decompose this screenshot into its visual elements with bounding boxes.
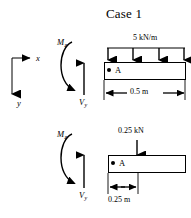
x-axis-label: x — [36, 54, 40, 63]
shear-label-top: Vy — [79, 92, 87, 108]
figure-canvas: Case 1 — [0, 0, 191, 218]
point-load-label: 0.25 kN — [118, 127, 144, 135]
dimension-label-bottom: 0.25 m — [108, 196, 130, 204]
moment-arc-bottom — [61, 134, 74, 183]
moment-subscript-top: z — [64, 42, 67, 48]
shear-subscript-top: y — [84, 102, 87, 108]
y-axis-label: y — [17, 99, 21, 108]
moment-subscript-bottom: z — [64, 134, 67, 140]
moment-arc-top — [61, 42, 74, 90]
moment-label-top: Mz — [57, 32, 67, 48]
distributed-load-label: 5 kN/m — [133, 34, 157, 42]
point-a-marker-bottom — [111, 161, 115, 165]
shear-label-bottom: Vy — [79, 185, 87, 201]
point-a-marker-top — [107, 68, 111, 72]
point-a-label-bottom: A — [119, 159, 125, 168]
dimension-label-top: 0.5 m — [130, 88, 148, 96]
point-a-label-top: A — [115, 66, 121, 75]
moment-label-bottom: Mz — [57, 124, 67, 140]
diagram-vector-layer — [0, 0, 191, 218]
shear-subscript-bottom: y — [84, 195, 87, 201]
coordinate-axes — [12, 58, 30, 94]
